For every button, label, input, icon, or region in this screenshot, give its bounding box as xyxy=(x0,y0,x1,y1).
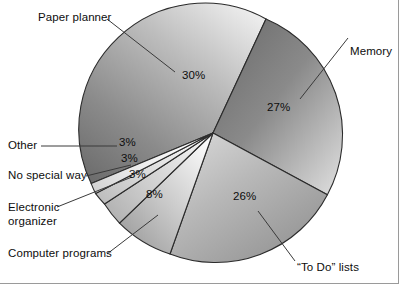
pie-category-label-electronic-organizer: Electronic organizer xyxy=(8,200,100,228)
pie-category-label-computer-programs: Computer programs xyxy=(8,247,112,260)
pie-value-label-todo-lists: 26% xyxy=(233,190,256,203)
pie-category-label-memory: Memory xyxy=(350,45,392,58)
pie-category-label-paper-planner: Paper planner xyxy=(38,11,112,24)
pie-value-label-paper-planner: 30% xyxy=(182,69,205,82)
pie-chart-canvas xyxy=(0,0,399,284)
pie-category-label-other: Other xyxy=(8,139,37,152)
pie-value-label-computer-programs: 8% xyxy=(146,188,163,201)
pie-category-label-no-special-way: No special way xyxy=(8,169,87,182)
pie-value-label-no-special-way: 3% xyxy=(121,152,138,165)
pie-category-label-todo-lists: “To Do” lists xyxy=(297,261,359,274)
pie-value-label-electronic-organizer: 3% xyxy=(129,168,146,181)
pie-value-label-other: 3% xyxy=(119,136,136,149)
pie-chart-figure: 30% 27% 26% 8% 3% 3% 3% Paper planner Me… xyxy=(0,0,399,284)
pie-slices xyxy=(79,3,343,263)
pie-value-label-memory: 27% xyxy=(267,101,290,114)
